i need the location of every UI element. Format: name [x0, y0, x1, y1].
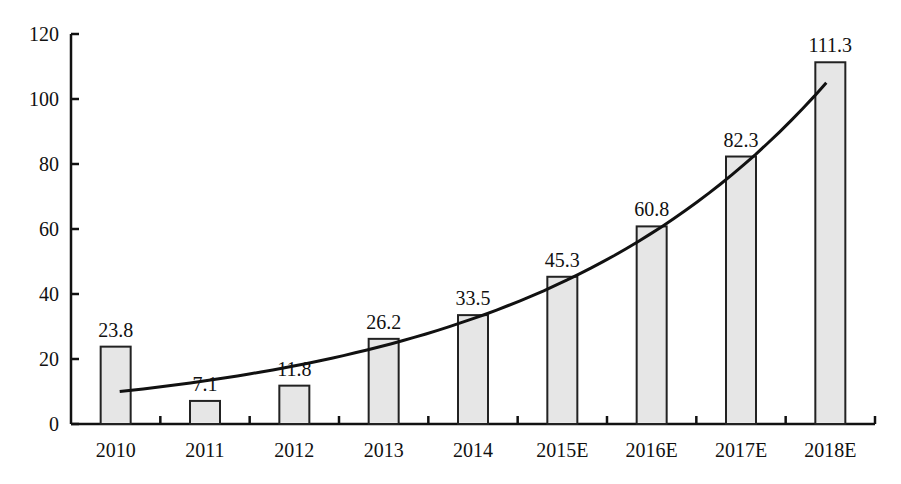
y-tick-label: 100 [29, 88, 59, 110]
x-category-label: 2011 [185, 439, 224, 461]
bar-value-label: 26.2 [366, 311, 401, 333]
bar-2014 [458, 315, 488, 424]
x-category-label: 2010 [96, 439, 136, 461]
bar-2018E [815, 62, 845, 424]
x-category-label: 2014 [453, 439, 493, 461]
x-category-label: 2016E [626, 439, 678, 461]
x-category-label: 2013 [364, 439, 404, 461]
x-category-label: 2015E [536, 439, 588, 461]
x-category-label: 2017E [715, 439, 767, 461]
bar-chart: 02040608010012023.820107.1201111.8201226… [0, 0, 901, 484]
bar-2017E [726, 157, 756, 424]
bar-value-label: 60.8 [634, 198, 669, 220]
bar-value-label: 33.5 [456, 287, 491, 309]
y-tick-label: 120 [29, 23, 59, 45]
y-tick-label: 20 [39, 348, 59, 370]
bar-2011 [190, 401, 220, 424]
bar-2015E [547, 277, 577, 424]
x-category-label: 2018E [804, 439, 856, 461]
y-tick-label: 0 [49, 413, 59, 435]
bar-2010 [101, 347, 131, 424]
bar-value-label: 111.3 [809, 34, 853, 56]
y-tick-label: 60 [39, 218, 59, 240]
bar-value-label: 82.3 [724, 129, 759, 151]
y-tick-label: 40 [39, 283, 59, 305]
bar-value-label: 23.8 [98, 319, 133, 341]
bar-2016E [637, 226, 667, 424]
bar-value-label: 7.1 [193, 373, 218, 395]
bar-2013 [369, 339, 399, 424]
y-tick-label: 80 [39, 153, 59, 175]
x-category-label: 2012 [274, 439, 314, 461]
bar-value-label: 45.3 [545, 249, 580, 271]
bar-2012 [279, 386, 309, 424]
